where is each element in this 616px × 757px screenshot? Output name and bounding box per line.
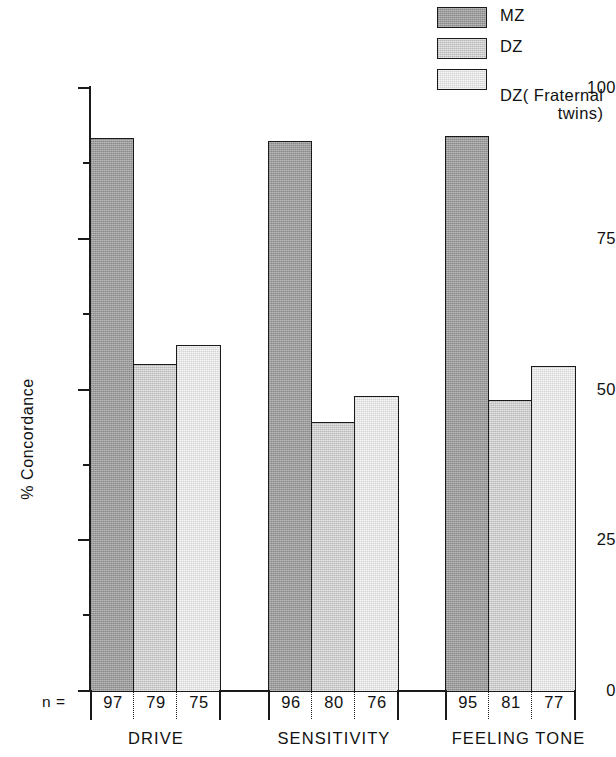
y-tick-25 — [78, 539, 90, 541]
y-label-75: 75 — [570, 229, 616, 248]
y-axis-title: % Concordance — [19, 359, 37, 519]
n-value-dzf-feeling-tone: 77 — [533, 693, 575, 712]
category-label-sensitivity: SENSITIVITY — [269, 729, 399, 748]
n-value-dz-drive: 79 — [135, 693, 177, 712]
category-label-drive: DRIVE — [91, 729, 221, 748]
n-value-mz-feeling-tone: 95 — [447, 693, 489, 712]
bar-mz-sensitivity — [268, 141, 312, 692]
y-tick-50 — [78, 389, 90, 391]
y-label-25: 25 — [570, 530, 616, 549]
y-tick-100 — [78, 87, 90, 89]
n-row: 97 79 75 96 80 76 95 81 — [89, 690, 576, 720]
n-box-sensitivity: 96 80 76 — [268, 690, 399, 720]
y-label-100: 100 — [570, 78, 616, 97]
bar-dz-drive — [133, 364, 177, 692]
bar-dz-fraternal-drive — [176, 345, 221, 692]
bar-dz-fraternal-feeling-tone — [531, 366, 576, 692]
bar-mz-drive — [90, 138, 134, 692]
bar-mz-feeling-tone — [445, 136, 489, 692]
n-value-dzf-sensitivity: 76 — [356, 693, 398, 712]
n-box-drive: 97 79 75 — [90, 690, 221, 720]
y-label-0: 0 — [570, 681, 616, 700]
y-tick-minor-12 — [83, 614, 90, 616]
bar-dz-sensitivity — [311, 422, 355, 692]
y-tick-minor-87 — [83, 162, 90, 164]
bar-dz-fraternal-sensitivity — [354, 396, 399, 692]
y-tick-75 — [78, 238, 90, 240]
n-value-mz-sensitivity: 96 — [270, 693, 312, 712]
n-box-feeling-tone: 95 81 77 — [445, 690, 576, 720]
n-row-prefix: n = — [42, 693, 65, 711]
n-value-dz-feeling-tone: 81 — [490, 693, 532, 712]
y-tick-minor-62 — [83, 313, 90, 315]
y-label-50: 50 — [570, 380, 616, 399]
category-label-feeling-tone: FEELING TONE — [446, 729, 591, 748]
n-value-mz-drive: 97 — [92, 693, 134, 712]
concordance-bar-chart: MZ DZ DZ( Fraternal twins) 100 75 50 — [0, 0, 616, 757]
plot-area: 100 75 50 25 0 % Concordance n = 97 — [0, 0, 616, 757]
bar-dz-feeling-tone — [488, 400, 532, 692]
n-value-dzf-drive: 75 — [178, 693, 220, 712]
y-tick-minor-37 — [83, 464, 90, 466]
n-value-dz-sensitivity: 80 — [313, 693, 355, 712]
